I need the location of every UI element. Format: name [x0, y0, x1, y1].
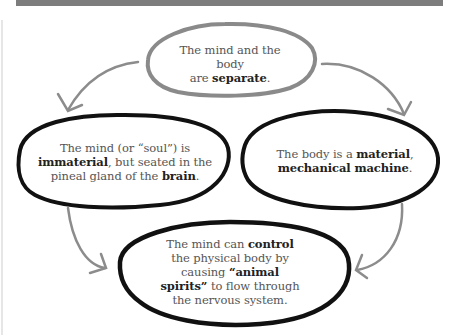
text-segment: . — [409, 161, 413, 175]
node-right-text: The body is a material, mechanical machi… — [265, 147, 425, 175]
keyword-brain: brain — [162, 169, 196, 183]
arrow-head-icon — [356, 255, 367, 278]
text-segment: the physical body by — [171, 251, 289, 265]
text-segment: , — [410, 147, 414, 161]
text-segment: are — [190, 71, 212, 85]
text-segment: to flow through — [207, 279, 299, 293]
node-left-text: The mind (or “soul”) is immaterial, but … — [35, 141, 215, 183]
text-segment: . — [196, 169, 200, 183]
keyword-spirits: spirits” — [160, 279, 207, 293]
arrow-left-to-bottom — [68, 208, 106, 273]
text-segment: pineal gland of the — [51, 169, 162, 183]
text-segment: The body is a — [277, 147, 357, 161]
keyword-animal: “animal — [229, 265, 279, 279]
text-segment: causing — [181, 265, 229, 279]
keyword-material: material — [356, 147, 410, 161]
arrow-right-to-bottom — [356, 204, 402, 278]
text-segment: The mind can — [166, 237, 248, 251]
text-segment: The mind and the body — [179, 43, 280, 71]
keyword-control: control — [248, 237, 294, 251]
node-bottom-text: The mind can control the physical body b… — [145, 237, 315, 307]
text-segment: , but seated in the — [108, 155, 212, 169]
node-top-text: The mind and the body are separate. — [170, 43, 290, 85]
text-segment: the nervous system. — [173, 293, 288, 307]
text-segment: . — [267, 71, 271, 85]
keyword-mechanical-machine: mechanical machine — [278, 161, 409, 175]
arrow-top-to-right — [322, 64, 411, 115]
keyword-immaterial: immaterial — [38, 155, 108, 169]
text-segment: The mind (or “soul”) is — [60, 141, 190, 155]
keyword-separate: separate — [212, 71, 267, 85]
arrow-top-to-left — [58, 62, 138, 111]
